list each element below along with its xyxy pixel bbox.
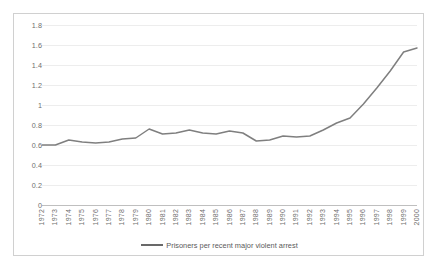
x-axis: 1972197319741975197619771978197919801981… (14, 14, 425, 257)
x-axis-tick-label: 1974 (65, 209, 72, 225)
x-axis-tick-label: 1987 (239, 209, 246, 225)
x-axis-tick-label: 1990 (279, 209, 286, 225)
x-axis-tick-label: 1988 (252, 209, 259, 225)
x-axis-tick-label: 1982 (172, 209, 179, 225)
x-axis-tick-label: 1989 (266, 209, 273, 225)
x-axis-tick-label: 1991 (292, 209, 299, 225)
x-axis-tick-label: 1973 (51, 209, 58, 225)
x-axis-tick-label: 1985 (212, 209, 219, 225)
x-axis-tick-label: 1975 (78, 209, 85, 225)
x-axis-tick-label: 2000 (413, 209, 420, 225)
x-axis-tick-label: 1998 (386, 209, 393, 225)
legend-label: Prisoners per recent major violent arres… (166, 241, 297, 250)
x-axis-tick-label: 1976 (92, 209, 99, 225)
x-axis-tick-label: 1981 (159, 209, 166, 225)
x-axis-tick-label: 1996 (359, 209, 366, 225)
x-axis-tick-label: 1993 (319, 209, 326, 225)
x-axis-tick-label: 1980 (145, 209, 152, 225)
plot-area: 00.20.40.60.811.21.41.61.8 1972197319741… (14, 14, 425, 257)
legend-line-swatch (141, 244, 163, 246)
x-axis-tick-label: 1984 (199, 209, 206, 225)
x-axis-tick-label: 1999 (400, 209, 407, 225)
x-axis-tick-label: 1979 (132, 209, 139, 225)
x-axis-tick-label: 1977 (105, 209, 112, 225)
chart-legend: Prisoners per recent major violent arres… (14, 240, 425, 250)
x-axis-tick-label: 1986 (226, 209, 233, 225)
x-axis-tick-label: 1992 (306, 209, 313, 225)
x-axis-tick-label: 1994 (333, 209, 340, 225)
x-axis-tick-label: 1978 (118, 209, 125, 225)
x-axis-tick-label: 1983 (185, 209, 192, 225)
chart-container: 00.20.40.60.811.21.41.61.8 1972197319741… (13, 13, 424, 256)
x-axis-tick-label: 1995 (346, 209, 353, 225)
x-axis-tick-label: 1997 (373, 209, 380, 225)
x-axis-tick-label: 1972 (38, 209, 45, 225)
